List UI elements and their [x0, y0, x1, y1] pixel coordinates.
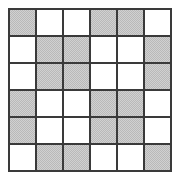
- grid-cell-r2-c5: [118, 37, 143, 62]
- grid-cell-r1-c4: [91, 10, 116, 35]
- grid-cell-r3-c3: [64, 64, 89, 89]
- grid-cell-r2-c6: [145, 37, 170, 62]
- grid-cell-r4-c1: [10, 91, 35, 116]
- grid-cell-r2-c3: [64, 37, 89, 62]
- grid-cell-r6-c4: [91, 145, 116, 170]
- shaded-grid: [8, 8, 172, 172]
- grid-cell-r5-c3: [64, 118, 89, 143]
- grid-cell-r1-c2: [37, 10, 62, 35]
- grid-cell-r6-c2: [37, 145, 62, 170]
- grid-cell-r5-c5: [118, 118, 143, 143]
- grid-cell-r5-c1: [10, 118, 35, 143]
- grid-cell-r4-c5: [118, 91, 143, 116]
- grid-cell-r1-c1: [10, 10, 35, 35]
- grid-cell-r2-c1: [10, 37, 35, 62]
- grid-cell-r2-c2: [37, 37, 62, 62]
- grid-cell-r6-c6: [145, 145, 170, 170]
- grid-cell-r6-c3: [64, 145, 89, 170]
- grid-cell-r4-c6: [145, 91, 170, 116]
- grid-cell-r5-c4: [91, 118, 116, 143]
- grid-cell-r6-c1: [10, 145, 35, 170]
- grid-cell-r6-c5: [118, 145, 143, 170]
- grid-cell-r5-c6: [145, 118, 170, 143]
- grid-cell-r4-c4: [91, 91, 116, 116]
- grid-cell-r3-c4: [91, 64, 116, 89]
- figure-canvas: [0, 0, 180, 183]
- grid-cell-r4-c3: [64, 91, 89, 116]
- grid-cell-r4-c2: [37, 91, 62, 116]
- grid-cell-r3-c6: [145, 64, 170, 89]
- grid-cell-r1-c6: [145, 10, 170, 35]
- grid-cell-r2-c4: [91, 37, 116, 62]
- grid-cell-r5-c2: [37, 118, 62, 143]
- grid-cell-r1-c5: [118, 10, 143, 35]
- grid-cell-r3-c2: [37, 64, 62, 89]
- grid-cell-r3-c5: [118, 64, 143, 89]
- grid-cell-r3-c1: [10, 64, 35, 89]
- grid-cell-r1-c3: [64, 10, 89, 35]
